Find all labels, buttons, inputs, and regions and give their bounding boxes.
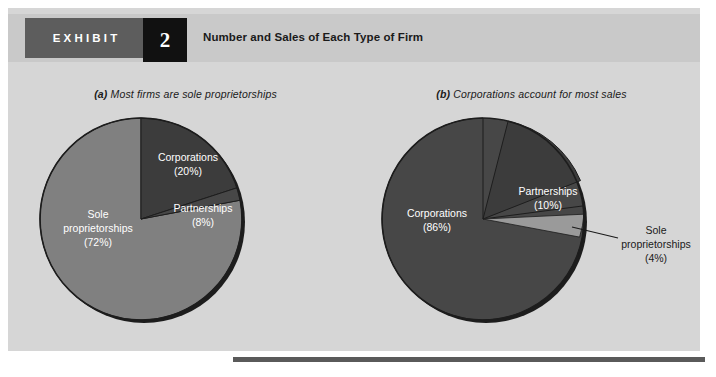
pie-b-label-corporations-name: Corporations <box>407 207 467 219</box>
pie-a-label-sole-pct: (72%) <box>84 236 112 248</box>
chart-b-caption-letter: (b) <box>436 88 450 100</box>
chart-b-caption: (b) Corporations account for most sales <box>363 88 700 100</box>
pie-b-label-sole-line1: Sole <box>645 224 666 236</box>
chart-panel-a: (a) Most firms are sole proprietorships <box>8 62 363 351</box>
pie-a-label-partnerships-name: Partnerships <box>174 202 233 214</box>
pie-b-label-partnerships-pct: (10%) <box>534 199 562 211</box>
pie-a-label-corporations-name: Corporations <box>158 151 218 163</box>
pie-b-wrapper: Corporations (86%) Partnerships (10%) So… <box>375 110 705 325</box>
exhibit-number: 2 <box>160 28 171 53</box>
bottom-rule <box>233 357 705 362</box>
chart-b-caption-text: Corporations account for most sales <box>450 88 626 100</box>
exhibit-title: Number and Sales of Each Type of Firm <box>203 31 423 43</box>
chart-panel-b: (b) Corporations account for most sales … <box>363 62 700 351</box>
chart-a-caption-text: Most firms are sole proprietorships <box>107 88 276 100</box>
pie-a-label-sole-line1: Sole <box>87 208 108 220</box>
exhibit-tab: EXHIBIT <box>25 18 145 58</box>
pie-b-label-partnerships-name: Partnerships <box>519 185 578 197</box>
exhibit-number-badge: 2 <box>143 18 187 62</box>
pie-chart-a: Corporations (20%) Partnerships (8%) Sol… <box>36 110 286 325</box>
exhibit-figure: EXHIBIT 2 Number and Sales of Each Type … <box>0 0 716 377</box>
chart-a-caption: (a) Most firms are sole proprietorships <box>8 88 363 100</box>
chart-a-caption-letter: (a) <box>94 88 107 100</box>
pie-chart-b: Corporations (86%) Partnerships (10%) So… <box>375 110 705 325</box>
pie-a-label-partnerships-pct: (8%) <box>192 216 214 228</box>
pie-b-label-corporations-pct: (86%) <box>423 221 451 233</box>
pie-b-label-sole-line2: proprietorships <box>621 238 690 250</box>
pie-a-label-corporations-pct: (20%) <box>174 165 202 177</box>
pie-a-label-sole-line2: proprietorships <box>63 222 132 234</box>
exhibit-label: EXHIBIT <box>25 18 145 58</box>
pie-b-label-sole-pct: (4%) <box>645 252 667 264</box>
pie-a-wrapper: Corporations (20%) Partnerships (8%) Sol… <box>36 110 286 325</box>
charts-container: (a) Most firms are sole proprietorships <box>8 62 700 351</box>
